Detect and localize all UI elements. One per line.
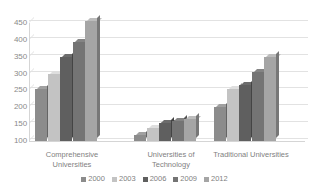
x-axis-category-label: Traditional Universities: [196, 150, 306, 160]
bar[interactable]: [252, 72, 264, 141]
bar-front-face: [184, 119, 196, 141]
bar-front-face: [60, 57, 72, 141]
category-label-line: Universities: [17, 160, 127, 170]
bar[interactable]: [73, 42, 85, 141]
bar[interactable]: [35, 89, 47, 141]
bar-front-face: [252, 72, 264, 141]
bar-series-layer: [0, 0, 309, 150]
legend: 20002003200620092012: [0, 172, 309, 186]
bar-group: [35, 140, 98, 141]
bar[interactable]: [159, 123, 171, 141]
bar-chart: 100150200250300350400450 ComprehensiveUn…: [0, 0, 309, 189]
x-axis-category-labels: ComprehensiveUniversitiesUniversities of…: [0, 150, 309, 172]
legend-swatch-icon: [112, 177, 117, 182]
bar[interactable]: [227, 89, 239, 141]
bar-front-face: [214, 107, 226, 141]
bar[interactable]: [134, 135, 146, 141]
legend-label: 2012: [211, 175, 228, 183]
legend-item[interactable]: 2000: [81, 175, 105, 183]
bar-front-face: [147, 128, 159, 141]
bar-side-face: [276, 51, 279, 138]
bar[interactable]: [184, 119, 196, 141]
bar[interactable]: [147, 128, 159, 141]
bar-front-face: [35, 89, 47, 141]
legend-item[interactable]: 2003: [112, 175, 136, 183]
bar-side-face: [196, 113, 199, 138]
legend-label: 2006: [150, 175, 167, 183]
bar-front-face: [239, 85, 251, 141]
plot-area: 100150200250300350400450: [0, 0, 309, 150]
x-axis-category-label: ComprehensiveUniversities: [17, 150, 127, 169]
bar-front-face: [134, 135, 146, 141]
bar-side-face: [97, 15, 100, 138]
bar-front-face: [227, 89, 239, 141]
bar-front-face: [264, 57, 276, 141]
legend-label: 2009: [180, 175, 197, 183]
legend-label: 2003: [119, 175, 136, 183]
legend-item[interactable]: 2009: [173, 175, 197, 183]
bar[interactable]: [48, 74, 60, 141]
bar-group: [214, 140, 277, 141]
legend-item[interactable]: 2012: [204, 175, 228, 183]
legend-swatch-icon: [143, 177, 148, 182]
bar-front-face: [85, 21, 97, 141]
bar-front-face: [73, 42, 85, 141]
bar[interactable]: [172, 121, 184, 141]
category-label-line: Comprehensive: [17, 150, 127, 160]
bar[interactable]: [214, 107, 226, 141]
bar-front-face: [48, 74, 60, 141]
bar[interactable]: [85, 21, 97, 141]
legend-item[interactable]: 2006: [143, 175, 167, 183]
bar-front-face: [159, 123, 171, 141]
legend-swatch-icon: [81, 177, 86, 182]
bar[interactable]: [264, 57, 276, 141]
category-label-line: Technology: [116, 160, 226, 170]
legend-label: 2000: [88, 175, 105, 183]
category-label-line: Traditional Universities: [196, 150, 306, 160]
bar[interactable]: [239, 85, 251, 141]
bar-group: [134, 140, 197, 141]
bar[interactable]: [60, 57, 72, 141]
bar-front-face: [172, 121, 184, 141]
legend-swatch-icon: [204, 177, 209, 182]
legend-swatch-icon: [173, 177, 178, 182]
